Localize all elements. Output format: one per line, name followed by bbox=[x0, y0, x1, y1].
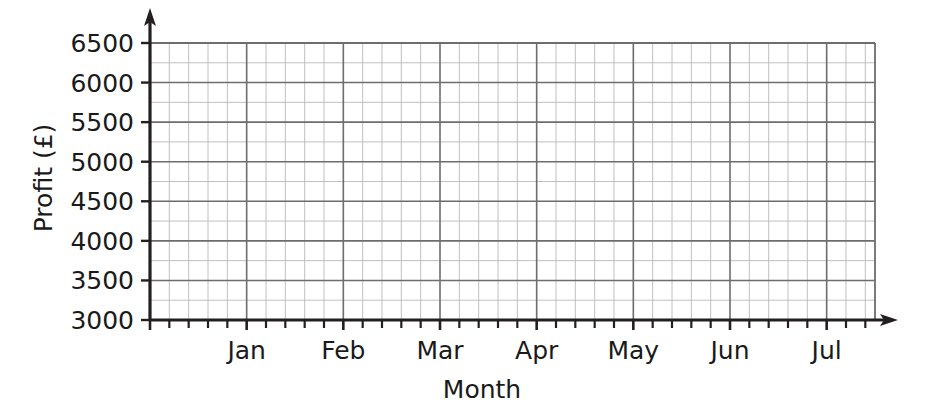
y-axis-tick-label: 5500 bbox=[70, 108, 134, 137]
x-axis-tick-label: Feb bbox=[321, 336, 365, 365]
x-axis-tick-label: Jun bbox=[708, 336, 749, 365]
y-axis-tick-label: 3000 bbox=[70, 306, 134, 335]
x-axis-tick-label: Apr bbox=[515, 336, 559, 365]
chart-container: 65006000550050004500400035003000 JanFebM… bbox=[0, 0, 932, 419]
y-axis-tick-label: 6500 bbox=[70, 29, 134, 58]
y-axis-tick-label: 6000 bbox=[70, 69, 134, 98]
x-axis-tick-label: Jul bbox=[810, 336, 842, 365]
y-axis-tick-label: 4000 bbox=[70, 227, 134, 256]
y-axis-title: Profit (£) bbox=[29, 124, 58, 233]
x-axis-tick-label: Mar bbox=[416, 336, 464, 365]
y-axis-tick-label: 3500 bbox=[70, 266, 134, 295]
y-axis-tick-label: 4500 bbox=[70, 187, 134, 216]
x-axis-title: Month bbox=[443, 375, 521, 404]
y-axis-tick-label: 5000 bbox=[70, 148, 134, 177]
x-axis-tick-label: May bbox=[607, 336, 659, 365]
profit-vs-month-chart: 65006000550050004500400035003000 JanFebM… bbox=[0, 0, 932, 419]
x-axis-tick-label: Jan bbox=[225, 336, 266, 365]
